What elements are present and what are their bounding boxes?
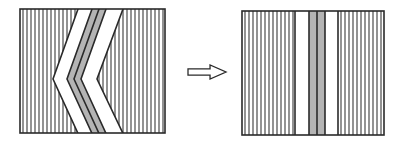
diagram-canvas: Schematic of a folded (chevron) layered … bbox=[0, 0, 401, 145]
right-arrow-icon bbox=[188, 65, 226, 79]
folded-layers-panel bbox=[20, 7, 165, 135]
fold-straightening-diagram bbox=[0, 0, 401, 145]
straightened-layers-panel bbox=[242, 11, 384, 135]
